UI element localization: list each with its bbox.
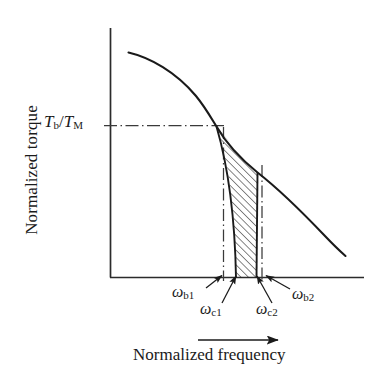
- omega-symbol: ω: [172, 283, 183, 300]
- torque-frequency-chart: [0, 0, 365, 374]
- annotation-omega-b2: ωb2: [292, 285, 314, 303]
- omega-symbol: ω: [200, 300, 211, 317]
- omega-symbol: ω: [256, 300, 267, 317]
- omega-subscript: b1: [183, 289, 194, 301]
- y-tick-denominator: T: [64, 112, 73, 131]
- x-axis-title: Normalized frequency: [133, 345, 285, 365]
- omega-symbol: ω: [292, 285, 303, 302]
- wedge-right-boundary: [257, 173, 258, 278]
- leader-line-omega-c2: [257, 276, 272, 303]
- y-tick-denominator-sub: M: [73, 119, 83, 131]
- annotation-omega-c1: ωc1: [200, 300, 222, 318]
- omega-subscript: c1: [211, 306, 221, 318]
- omega-subscript: c2: [267, 306, 277, 318]
- y-tick-label-tb-tm: Tb/TM: [44, 112, 83, 132]
- annotation-omega-c2: ωc2: [256, 300, 278, 318]
- annotation-omega-b1: ωb1: [172, 283, 194, 301]
- omega-subscript: b2: [303, 291, 314, 303]
- y-axis-title: Normalized torque: [22, 75, 42, 265]
